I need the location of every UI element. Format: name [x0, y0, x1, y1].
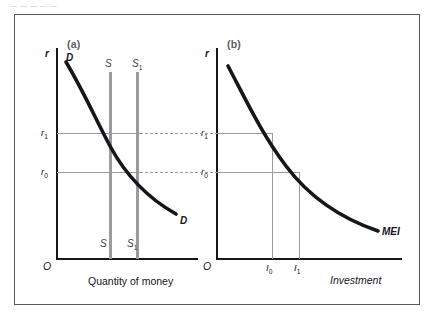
panel-b-y-axis	[216, 48, 218, 260]
panel-a-y-axis	[56, 48, 58, 260]
panel-a-x-axis	[56, 258, 198, 260]
panel-label-b: (b)	[227, 38, 241, 50]
panel-b-xtick-I1: I1	[294, 262, 300, 275]
connector-dashed-r1	[130, 133, 218, 134]
panel-b-y-axis-label: r	[205, 48, 209, 59]
panel-a-supply-line-S1	[136, 72, 139, 259]
panel-b-guide-r1	[217, 133, 273, 134]
panel-b-curve-label-MEI: MEI	[382, 226, 400, 237]
panel-a-supply-label-S-bottom: S	[100, 238, 107, 251]
panel-b-guide-r0	[217, 172, 300, 173]
panel-a-ytick-r0: r0	[41, 166, 48, 179]
panel-b-x-axis	[216, 258, 402, 260]
panel-a-ytick-r1: r1	[41, 127, 48, 140]
panel-a-supply-label-S-top: S	[105, 58, 112, 71]
connector-dashed-r0	[130, 172, 218, 173]
panel-b-origin-label: O	[203, 260, 211, 272]
top-cutoff-text: — — — — —	[10, 1, 130, 10]
panel-a-curve-label-D-bottom: D	[180, 215, 187, 226]
panel-a-y-axis-label: r	[45, 48, 49, 59]
panel-a-origin-label: O	[43, 260, 51, 272]
panel-b-x-axis-label: Investment	[330, 274, 381, 286]
panel-label-a: (a)	[67, 38, 80, 50]
panel-b-guide-I0	[272, 133, 273, 259]
panel-a-x-axis-label: Quantity of money	[88, 275, 173, 287]
panel-a-supply-line-S	[109, 72, 112, 259]
panel-a-curve-label-D-top: D	[66, 52, 73, 63]
panel-a-supply-label-S1-bottom: S1	[127, 238, 137, 251]
panel-b-xtick-I0: I0	[266, 262, 272, 275]
panel-b-guide-I1	[299, 172, 300, 259]
panel-a-supply-label-S1-top: S1	[132, 58, 142, 71]
